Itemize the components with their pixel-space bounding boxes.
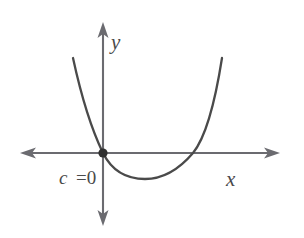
parabola-curve-group [73,58,222,179]
y-axis-group [98,22,109,226]
x-axis-group [20,148,280,159]
figure-container: y x c =0 [0,0,304,238]
origin-point-marker [98,148,107,157]
parabola-figure: y x c =0 [0,0,304,238]
y-axis-label: y [109,30,121,54]
c-variable-label: c [59,167,68,188]
c-value-label: =0 [76,167,96,188]
parabola-curve [73,58,222,179]
x-axis-label: x [225,167,236,191]
